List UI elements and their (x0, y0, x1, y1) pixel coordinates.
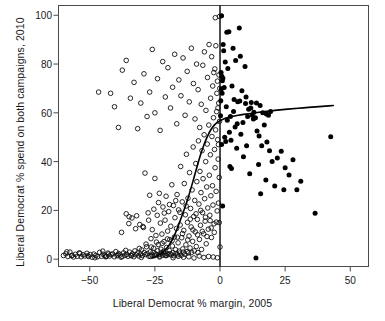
x-tick-label: −50 (81, 275, 98, 286)
chart-figure: −50−2502550020406080100 Liberal Democrat… (0, 0, 385, 321)
scatter-plot-canvas (0, 0, 385, 321)
x-tick-label: 25 (280, 275, 291, 286)
x-tick-label: 50 (345, 275, 356, 286)
x-tick-label: −25 (146, 275, 163, 286)
y-axis-title: Liberal Democrat % spend on both campaig… (14, 12, 26, 272)
x-axis-title: Liberal Democrat % margin, 2005 (0, 297, 385, 309)
figure-background (0, 0, 385, 321)
x-tick-label: 0 (217, 275, 223, 286)
